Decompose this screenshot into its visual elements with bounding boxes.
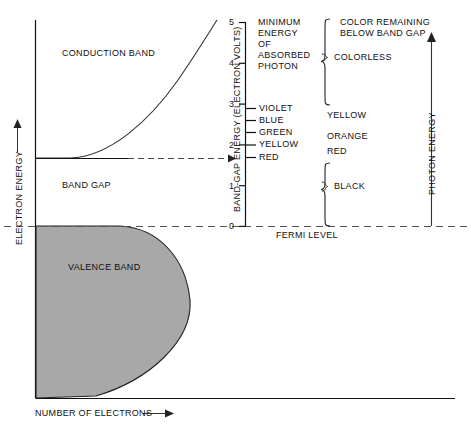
absorbed-color-green: GREEN: [259, 127, 293, 138]
minimum-photon-energy-note-line-2: ENERGY: [258, 28, 298, 40]
remaining-color-yellow: YELLOW: [327, 110, 366, 121]
remaining-color-orange: ORANGE: [327, 131, 368, 142]
color-remaining-header-line-2: BELOW BAND GAP: [340, 28, 426, 40]
number-of-electrons-arrowhead: [165, 410, 174, 418]
band-gap-diagram: ELECTRON ENERGY NUMBER OF ELECTRONS BAND…: [0, 0, 471, 427]
remaining-color-colorless: COLORLESS: [334, 52, 392, 63]
minimum-photon-energy-note-line-1: MINIMUM: [258, 17, 301, 29]
axis-label-electron-energy: ELECTRON ENERGY: [14, 146, 25, 245]
band-label-gap: BAND GAP: [62, 180, 111, 191]
conduction-band-curve: [36, 20, 217, 158]
scale-tick-label-5: 5: [229, 17, 234, 28]
remaining-color-red: RED: [327, 146, 347, 157]
scale-tick-label-3: 3: [229, 99, 234, 110]
axis-label-number-of-electrons: NUMBER OF ELECTRONS: [35, 408, 158, 419]
electron-energy-arrowhead: [14, 119, 22, 128]
color-remaining-header-line-1: COLOR REMAINING: [340, 17, 430, 29]
black-brace: [321, 163, 330, 226]
absorbed-color-blue: BLUE: [259, 115, 284, 126]
axis-label-photon-energy: PHOTON ENERGY: [427, 112, 438, 195]
fermi-level-label: FERMI LEVEL: [276, 230, 338, 241]
valence-band-region: [36, 226, 190, 398]
scale-tick-label-0: 0: [229, 221, 234, 232]
band-label-valence: VALENCE BAND: [68, 262, 140, 273]
absorbed-color-violet: VIOLET: [259, 103, 293, 114]
remaining-color-black: BLACK: [334, 181, 365, 192]
scale-tick-label-1: 1: [229, 181, 234, 192]
scale-tick-label-2: 2: [229, 140, 234, 151]
minimum-photon-energy-note-line-3: OF: [258, 39, 271, 51]
colorless-brace: [321, 19, 330, 105]
absorbed-color-yellow: YELLOW: [259, 139, 298, 150]
band-label-conduction: CONDUCTION BAND: [62, 48, 155, 59]
minimum-photon-energy-note-line-5: PHOTON: [258, 61, 298, 73]
minimum-photon-energy-note-line-4: ABSORBED: [258, 50, 310, 62]
photon-energy-arrowhead: [427, 32, 436, 42]
absorbed-color-red: RED: [259, 152, 279, 163]
scale-tick-label-4: 4: [229, 58, 234, 69]
